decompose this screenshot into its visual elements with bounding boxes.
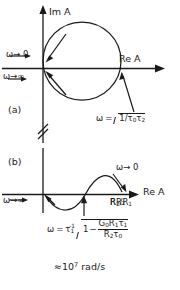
panel-b-equals: = (56, 224, 63, 234)
panel-a-omega-to-infinity-label: ω→∞ (3, 72, 24, 81)
panel-b-minus: − (89, 224, 96, 234)
panel-a-radical: 1/τ0τ2 (114, 113, 145, 124)
panel-b-real-axis-point-label: RR₂R₂/R₁ R2/R1 (110, 198, 125, 207)
panel-a-omega-to-zero-label: ω→ 0 (6, 50, 28, 59)
panel-b-radicand-one: 1 (83, 224, 88, 234)
panel-a-label: (a) (8, 105, 21, 115)
panel-b-frequency-pointer (81, 196, 87, 216)
tau-subscript: 0 (118, 233, 122, 239)
tau-two-subscript: 2 (141, 117, 145, 123)
panel-b-omega-symbol: ω (47, 224, 54, 234)
panel-b-magnitude-note: ≈107 rad/s (54, 262, 105, 272)
tau-exponent: -1 (69, 224, 75, 230)
panel-b-omega-zero-leader (113, 174, 126, 192)
tau0-term: τ0 (113, 229, 122, 239)
panel-b-direction-arrow-origin (44, 194, 55, 205)
panel-b-omega-to-infinity-label: ω→∞ (3, 196, 24, 205)
magnitude-exponent: 7 (74, 261, 78, 269)
panel-b-real-axis-label: Re A (143, 187, 165, 197)
panel-a-real-axis-label: Re A (119, 54, 141, 64)
r2-term: R2 (104, 229, 114, 239)
panel-b-radical: 1−G0R1τ1R2τ0 (77, 219, 128, 239)
panel-a-direction-arrow-upper (46, 34, 67, 63)
panel-b-frequency-formula: ω=τ1-1 1−G0R1τ1R2τ0 (47, 219, 128, 239)
panel-a-imaginary-axis-label: Im A (49, 7, 71, 17)
panel-a-frequency-pointer (119, 72, 134, 112)
panel-a-frequency-formula: ω=1/τ0τ2 (96, 113, 145, 124)
panel-a-direction-arrow-lower (45, 71, 66, 95)
panel-a-omega-symbol: ω (96, 113, 103, 123)
panel-b-fraction-denominator: R2τ0 (98, 230, 129, 240)
panel-b-tau-inverse: τ1-1 (65, 225, 74, 235)
tau-subscript: 1 (124, 222, 128, 228)
nyquist-figure (0, 0, 180, 290)
magnitude-unit: rad/s (81, 261, 105, 272)
panel-a-real-axis (2, 65, 165, 73)
panel-b-omega-to-zero-label: ω→ 0 (116, 163, 138, 172)
panel-b-label: (b) (8, 157, 21, 167)
panel-b-fraction: G0R1τ1R2τ0 (98, 219, 129, 239)
panel-a-tau-two: τ2 (136, 113, 145, 123)
panel-a-nyquist-circle (43, 22, 121, 100)
magnitude-mantissa: 10 (62, 261, 74, 272)
panel-a-equals: = (105, 113, 112, 123)
r2-over-r1: R2/R1 (110, 198, 132, 208)
approx-sign: ≈ (54, 261, 62, 272)
